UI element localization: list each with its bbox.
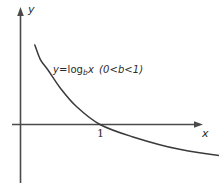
curve-equation-annotation: y=logbx(0<b<1): [53, 64, 143, 78]
y-axis-label: y: [28, 4, 35, 15]
y-axis: [17, 7, 24, 183]
annotation-x-variable: x: [88, 64, 94, 75]
x-axis-label: x: [202, 128, 209, 139]
logarithmic-function-graph: y x 1 y=logbx(0<b<1): [0, 0, 219, 183]
x-axis: [12, 121, 203, 128]
x-intercept-tick-label: 1: [97, 128, 104, 139]
annotation-equals-log: =log: [59, 64, 83, 75]
annotation-base-condition: (0<b<1): [99, 64, 143, 75]
plot-canvas: [0, 0, 219, 183]
y-axis-arrowhead-icon: [17, 7, 24, 16]
